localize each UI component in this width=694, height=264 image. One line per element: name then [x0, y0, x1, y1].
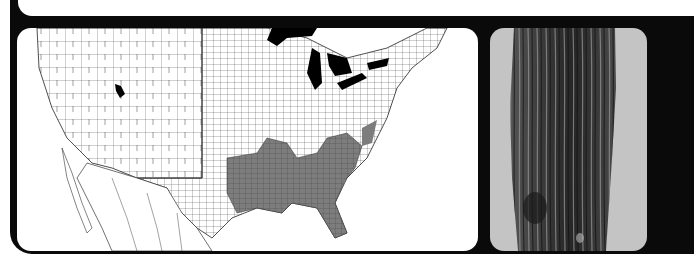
range-map-panel	[17, 28, 478, 251]
us-range-map	[17, 28, 478, 251]
figure-frame	[0, 0, 694, 264]
bark-photo-panel	[490, 28, 647, 251]
top-panel	[18, 0, 694, 16]
bark-photo	[490, 28, 647, 251]
left-margin	[0, 0, 10, 264]
western-us	[37, 28, 202, 178]
